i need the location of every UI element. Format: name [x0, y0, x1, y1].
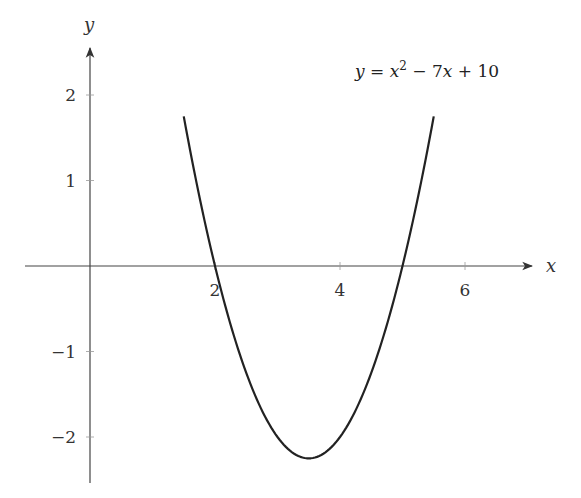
y-tick-label: −1 [51, 342, 76, 362]
y-axis-label: y [83, 14, 95, 35]
y-tick-label: 2 [65, 85, 76, 105]
x-tick-label: 4 [335, 280, 346, 300]
equation-label: y = x2 − 7x + 10 [354, 59, 499, 81]
x-tick-label: 6 [460, 280, 471, 300]
y-tick-label: −2 [51, 427, 76, 447]
parabola-curve [184, 116, 434, 458]
chart-canvas: 246 −2−112 x y y = x2 − 7x + 10 [0, 0, 581, 498]
y-tick-label: 1 [65, 171, 76, 191]
x-ticks: 246 [210, 262, 471, 300]
x-axis-label: x [546, 255, 556, 276]
